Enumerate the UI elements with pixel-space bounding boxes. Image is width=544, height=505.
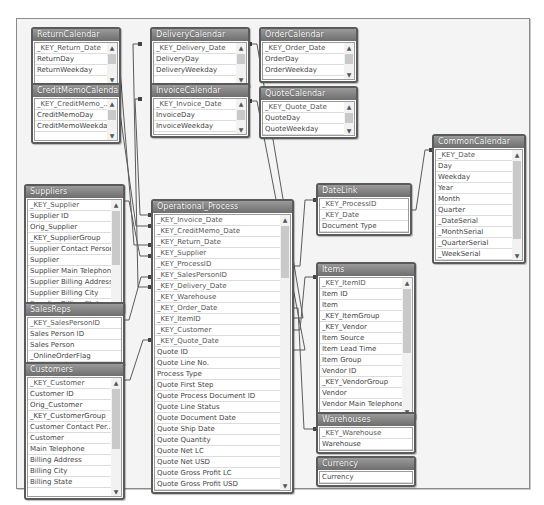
field[interactable]: Main Telephone <box>28 444 111 455</box>
field[interactable]: Quarter <box>436 205 512 216</box>
table-deliverycalendar[interactable]: DeliveryCalendar _KEY_Delivery_Date Deli… <box>150 27 250 88</box>
scrollbar[interactable]: ▲ ▼ <box>107 99 117 140</box>
field[interactable]: Quote Document Date <box>155 413 280 424</box>
field[interactable]: Quote Net USD <box>155 457 280 468</box>
scroll-down-icon[interactable]: ▼ <box>512 251 522 260</box>
field[interactable]: _KEY_Supplier <box>155 248 280 259</box>
table-warehouses[interactable]: Warehouses _KEY_Warehouse Warehouse <box>316 412 416 454</box>
field[interactable]: Supplier <box>28 255 111 266</box>
table-returncalendar[interactable]: ReturnCalendar _KEY_Return_Date ReturnDa… <box>31 27 121 88</box>
field[interactable]: Currency <box>320 472 412 483</box>
scroll-down-icon[interactable]: ▼ <box>344 70 354 79</box>
table-title[interactable]: Items <box>318 264 414 276</box>
table-title[interactable]: ReturnCalendar <box>33 29 119 41</box>
field[interactable]: Supplier Billing Address <box>28 277 111 288</box>
scroll-thumb[interactable] <box>345 54 353 64</box>
table-title[interactable]: Suppliers <box>26 186 123 198</box>
table-customers[interactable]: Customers _KEY_Customer Customer ID Orig… <box>24 362 125 500</box>
field[interactable]: CreditMemoWeekday <box>35 121 107 132</box>
scrollbar[interactable]: ▲ ▼ <box>344 43 354 79</box>
scroll-thumb[interactable] <box>281 226 289 278</box>
field[interactable]: InvoiceDay <box>154 110 236 121</box>
table-suppliers[interactable]: Suppliers _KEY_Supplier Supplier ID Orig… <box>24 184 125 314</box>
field[interactable]: _OnlineOrderFlag <box>28 351 121 362</box>
field[interactable]: _KEY_Order_Date <box>155 303 280 314</box>
field[interactable]: _KEY_Delivery_Date <box>154 43 236 54</box>
scrollbar[interactable]: ▲ ▼ <box>280 215 290 490</box>
field[interactable]: _KEY_Order_Date <box>263 43 344 54</box>
field[interactable]: Quote Ship Date <box>155 424 280 435</box>
scroll-up-icon[interactable]: ▲ <box>280 215 290 224</box>
field[interactable]: Item Lead Time <box>320 344 402 355</box>
table-title[interactable]: Warehouses <box>318 414 414 426</box>
field[interactable]: Year <box>436 183 512 194</box>
table-title[interactable]: DateLink <box>318 185 410 197</box>
table-title[interactable]: Customers <box>26 364 123 376</box>
field[interactable]: Billing State <box>28 477 111 488</box>
field[interactable]: Process Type <box>155 369 280 380</box>
scroll-up-icon[interactable]: ▲ <box>107 99 117 108</box>
field[interactable]: _KEY_SalesPersonID <box>28 318 121 329</box>
field[interactable]: _KEY_Quote_Date <box>263 102 344 113</box>
field[interactable]: QuoteWeekday <box>263 124 344 135</box>
field[interactable]: Item ID <box>320 289 402 300</box>
field[interactable]: Quote Quantity <box>155 435 280 446</box>
field[interactable]: Quote Gross Profit USD <box>155 479 280 490</box>
field[interactable]: Quote Process Document ID <box>155 391 280 402</box>
field[interactable]: _KEY_SupplierGroup <box>28 233 111 244</box>
field[interactable]: Quote Line Status <box>155 402 280 413</box>
field[interactable]: Month <box>436 194 512 205</box>
scrollbar[interactable]: ▲ ▼ <box>111 378 121 496</box>
table-title[interactable]: CommonCalendar <box>434 136 524 148</box>
field[interactable]: _KEY_Vendor <box>320 322 402 333</box>
scroll-down-icon[interactable]: ▼ <box>280 481 290 490</box>
scrollbar[interactable]: ▲ ▼ <box>402 278 412 416</box>
table-quotecalendar[interactable]: QuoteCalendar _KEY_Quote_Date QuoteDay Q… <box>259 86 358 139</box>
field[interactable]: Quote ID <box>155 347 280 358</box>
field[interactable]: _KEY_ItemID <box>155 314 280 325</box>
table-operational-process[interactable]: Operational_Process _KEY_Invoice_Date _K… <box>151 199 294 494</box>
table-title[interactable]: DeliveryCalendar <box>152 29 248 41</box>
table-datelink[interactable]: DateLink _KEY_ProcessID _KEY_Date Docume… <box>316 183 412 236</box>
table-commoncalendar[interactable]: CommonCalendar _KEY_Date Day Weekday Yea… <box>432 134 526 264</box>
field[interactable]: Orig_Customer <box>28 400 111 411</box>
scrollbar[interactable]: ▲ ▼ <box>236 43 246 84</box>
scroll-down-icon[interactable]: ▼ <box>107 131 117 140</box>
field[interactable]: Supplier Billing City <box>28 288 111 299</box>
field[interactable]: _KEY_Invoice_Date <box>154 99 236 110</box>
scrollbar[interactable]: ▲ ▼ <box>344 102 354 135</box>
field[interactable]: _KEY_Return_Date <box>155 237 280 248</box>
scroll-thumb[interactable] <box>108 54 116 64</box>
field[interactable]: _KEY_Date <box>320 210 408 221</box>
scroll-thumb[interactable] <box>345 113 353 123</box>
field[interactable]: Quote Line No. <box>155 358 280 369</box>
field[interactable]: Quote Gross Profit LC <box>155 468 280 479</box>
table-creditmemocalendar[interactable]: CreditMemoCalendar _KEY_CreditMemo_... C… <box>31 83 121 144</box>
scroll-up-icon[interactable]: ▲ <box>107 43 117 52</box>
field[interactable]: _QuarterSerial <box>436 238 512 249</box>
table-items[interactable]: Items _KEY_ItemID Item ID Item _KEY_Item… <box>316 262 416 420</box>
scroll-down-icon[interactable]: ▼ <box>111 487 121 496</box>
field[interactable]: QuoteDay <box>263 113 344 124</box>
table-salesreps[interactable]: SalesReps _KEY_SalesPersonID Sales Perso… <box>24 302 125 366</box>
field[interactable]: Supplier ID <box>28 211 111 222</box>
field[interactable]: OrderWeekday <box>263 65 344 76</box>
scroll-thumb[interactable] <box>403 289 411 353</box>
field[interactable]: Supplier Main Telephone <box>28 266 111 277</box>
field[interactable]: _KEY_Supplier <box>28 200 111 211</box>
field[interactable]: Item Group <box>320 355 402 366</box>
field[interactable]: Vendor Main Telephone <box>320 399 402 410</box>
scroll-thumb[interactable] <box>112 389 120 449</box>
field[interactable]: _DateSerial <box>436 216 512 227</box>
field[interactable]: Customer ID <box>28 389 111 400</box>
scroll-up-icon[interactable]: ▲ <box>111 378 121 387</box>
scroll-thumb[interactable] <box>237 110 245 120</box>
field[interactable]: _KEY_CreditMemo_... <box>35 99 107 110</box>
field[interactable]: _KEY_Return_Date <box>35 43 107 54</box>
table-title[interactable]: Operational_Process <box>153 201 292 213</box>
field[interactable]: Customer Contact Per... <box>28 422 111 433</box>
field[interactable]: Item Source <box>320 333 402 344</box>
field[interactable]: _KEY_SalesPersonID <box>155 270 280 281</box>
field[interactable]: Weekday <box>436 172 512 183</box>
scroll-down-icon[interactable]: ▼ <box>344 126 354 135</box>
